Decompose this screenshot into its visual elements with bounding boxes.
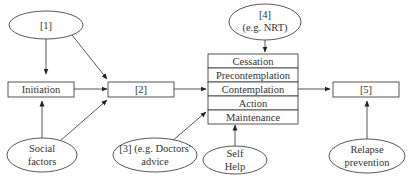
- edge-n3-to-stages: [171, 112, 206, 142]
- social-factors-line2: factors: [28, 156, 57, 167]
- self-help-line1: Self: [227, 148, 244, 159]
- node-4-label-line2: (e.g. NRT): [242, 22, 288, 34]
- node-3: [3] (e.g. Doctors' advice: [113, 138, 197, 172]
- edges: [42, 35, 367, 147]
- stage-contemplation-label: Contemplation: [222, 84, 285, 95]
- relapse-prevention-line2: prevention: [345, 157, 391, 168]
- edge-social-to-n2: [60, 100, 107, 141]
- self-help-line2: Help: [225, 161, 245, 172]
- stage-action-label: Action: [239, 98, 268, 109]
- node-social-factors: Social factors: [7, 138, 77, 172]
- node-1: [1]: [9, 11, 83, 39]
- relapse-prevention-line1: Relapse: [350, 144, 384, 155]
- node-2-label: [2]: [135, 84, 147, 95]
- node-self-help: Self Help: [203, 146, 267, 174]
- node-relapse-prevention: Relapse prevention: [329, 139, 405, 173]
- node-2: [2]: [108, 82, 174, 97]
- social-factors-line1: Social: [29, 143, 55, 154]
- node-4: [4] (e.g. NRT): [229, 4, 301, 40]
- node-5: [5]: [333, 82, 399, 97]
- stage-cessation-label: Cessation: [233, 56, 275, 67]
- edge-n1-to-n2: [72, 35, 107, 79]
- stage-precontemplation-label: Precontemplation: [216, 70, 291, 81]
- node-1-label: [1]: [40, 20, 52, 31]
- node-initiation: Initiation: [8, 82, 74, 97]
- stage-maintenance-label: Maintenance: [226, 112, 281, 123]
- initiation-label: Initiation: [22, 84, 61, 95]
- node-3-line1: [3] (e.g. Doctors': [119, 143, 190, 155]
- node-3-line2: advice: [141, 156, 169, 167]
- smoking-cessation-diagram: [1] [4] (e.g. NRT) Initiation [2] Cessat…: [0, 0, 416, 180]
- node-stages: Cessation Precontemplation Contemplation…: [208, 54, 298, 124]
- node-4-label-line1: [4]: [259, 9, 271, 20]
- node-5-label: [5]: [360, 84, 372, 95]
